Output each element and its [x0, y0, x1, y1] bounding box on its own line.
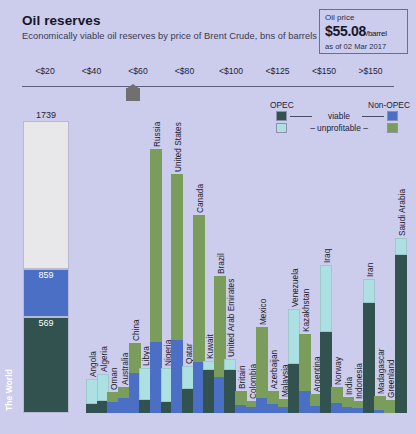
segment-unprofitable: [193, 215, 205, 362]
world-seg-unprofitable: [23, 121, 69, 269]
bar-label-china: China: [132, 319, 141, 341]
world-seg-opec-viable-value: 569: [23, 318, 69, 328]
price-tick-1: <$40: [69, 66, 115, 76]
oil-price-label: Oil price: [325, 13, 402, 23]
world-bar-label: The World: [4, 369, 14, 411]
axis-rule: [22, 86, 394, 87]
bar-label-canada: Canada: [196, 184, 205, 213]
legend-swatch-nonopec-viable: [387, 111, 398, 121]
oil-price-amount: $55.08: [325, 23, 366, 39]
world-seg-nonopec-viable-value: 859: [23, 270, 69, 280]
segment-unprofitable: [395, 238, 407, 254]
bar-label-kazakhstan: Kazakhstan: [302, 288, 311, 331]
current-price-marker-icon: [126, 88, 140, 101]
world-seg-opec-viable: [23, 317, 69, 413]
bar-label-united-states: United States: [174, 122, 183, 172]
bar-label-mexico: Mexico: [259, 298, 268, 324]
bar-label-iraq: Iraq: [323, 248, 332, 262]
bar-label-india: India: [345, 377, 354, 395]
price-tick-2: <$60: [115, 66, 161, 76]
bar-label-britain: Britain: [238, 365, 247, 389]
bar-label-venezuela: Venezuela: [291, 269, 300, 308]
bar-label-azerbaijan: Azerbaijan: [270, 349, 279, 388]
price-tick-4: <$100: [208, 66, 254, 76]
segment-unprofitable: [363, 279, 375, 303]
segment-unprofitable: [320, 265, 332, 332]
price-tick-5: <$125: [255, 66, 301, 76]
oil-price-date: as of 02 Mar 2017: [325, 42, 402, 52]
oil-reserves-infographic: Oil reserves Economically viable oil res…: [0, 0, 416, 434]
segment-unprofitable: [299, 334, 311, 391]
legend-nonopec-label: Non-OPEC: [368, 100, 410, 110]
bar-label-brazil: Brazil: [217, 253, 226, 274]
price-tick-6: <$150: [301, 66, 347, 76]
legend-dash-right: [362, 116, 384, 117]
bar-label-iran: Iran: [366, 263, 375, 277]
bar-label-russia: Russia: [153, 122, 162, 147]
legend-opec-label: OPEC: [270, 100, 294, 110]
price-tick-0: <$20: [22, 66, 68, 76]
bar-label-madagascar: Madagascar: [377, 348, 386, 394]
oil-price-value: $55.08/barrel: [325, 23, 402, 42]
page-subtitle: Economically viable oil reserves by pric…: [22, 31, 317, 41]
bar-iran[interactable]: Iran: [363, 279, 375, 413]
world-total-value: 1739: [23, 110, 69, 120]
bar-saudi-arabia[interactable]: Saudi Arabia: [395, 238, 407, 413]
bar-label-saudi-arabia: Saudi Arabia: [398, 189, 407, 236]
price-tick-3: <$80: [162, 66, 208, 76]
price-tick-7: >$150: [348, 66, 394, 76]
oil-price-unit: /barrel: [366, 29, 387, 38]
segment-unprofitable: [256, 327, 268, 398]
segment-viable: [395, 255, 407, 413]
bar-label-united-arab-emirates: United Arab Emirates: [227, 279, 236, 357]
country-bars: AngolaAlgeriaOmanAustraliaChinaLibyaRuss…: [86, 121, 406, 413]
price-axis: <$20<$40<$60<$80<$100<$125<$150>$150: [22, 66, 394, 90]
segment-unprofitable: [171, 174, 183, 340]
bar-label-algeria: Algeria: [100, 347, 109, 373]
page-title: Oil reserves: [22, 13, 101, 28]
segment-unprofitable: [150, 149, 162, 342]
oil-price-box: Oil price $55.08/barrel as of 02 Mar 201…: [319, 9, 408, 54]
world-bar: The World 569859: [23, 121, 69, 413]
bar-label-norway: Norway: [334, 357, 343, 385]
segment-unprofitable: [224, 359, 236, 370]
